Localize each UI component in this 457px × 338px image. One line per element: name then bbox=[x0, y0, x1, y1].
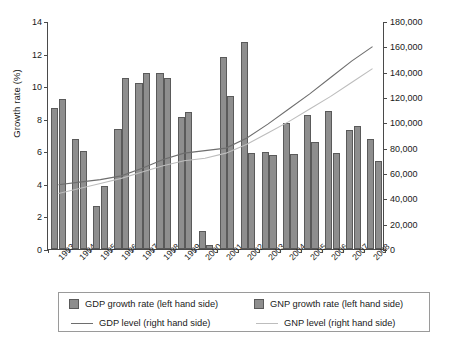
legend-row-lines: GDP level (right hand side) GNP level (r… bbox=[59, 313, 429, 333]
x-axis-tick bbox=[111, 249, 112, 253]
legend-label: GDP growth rate (left hand side) bbox=[85, 299, 218, 309]
x-axis-tick bbox=[153, 249, 154, 253]
y-axis-right-tick-label: 60,000 bbox=[390, 169, 418, 179]
legend-label: GNP level (right hand side) bbox=[284, 318, 395, 328]
y-axis-right-tick-label: 120,000 bbox=[390, 93, 423, 103]
x-axis-tick bbox=[238, 249, 239, 253]
y-axis-right-tick bbox=[383, 174, 387, 175]
x-axis-tick bbox=[132, 249, 133, 253]
legend-label: GDP level (right hand side) bbox=[99, 318, 210, 328]
y-axis-right-tick bbox=[383, 225, 387, 226]
y-axis-right-tick-label: 0 bbox=[390, 245, 395, 255]
x-axis-tick bbox=[195, 249, 196, 253]
x-axis-tick bbox=[301, 249, 302, 253]
x-axis-tick bbox=[385, 249, 386, 253]
y-axis-right-tick bbox=[383, 149, 387, 150]
y-axis-left-tick-label: 10 bbox=[32, 82, 42, 92]
y-axis-right-tick-label: 80,000 bbox=[390, 144, 418, 154]
y-axis-right-tick-label: 100,000 bbox=[390, 118, 423, 128]
y-axis-right-tick-label: 140,000 bbox=[390, 68, 423, 78]
x-axis-tick bbox=[90, 249, 91, 253]
x-axis-tick bbox=[69, 249, 70, 253]
x-axis-tick bbox=[48, 249, 49, 253]
y-axis-left-tick-label: 0 bbox=[37, 245, 42, 255]
plot-area: 02468101214 020,00040,00060,00080,000100… bbox=[47, 22, 384, 250]
x-axis-tick bbox=[259, 249, 260, 253]
y-axis-right-tick-label: 20,000 bbox=[390, 220, 418, 230]
y-axis-left-title: Growth rate (%) bbox=[11, 44, 22, 164]
gdp-growth-swatch-icon bbox=[69, 299, 79, 309]
legend-label: GNP growth rate (left hand side) bbox=[270, 299, 403, 309]
gnp-growth-swatch-icon bbox=[254, 299, 264, 309]
gdp-level-line-icon bbox=[71, 323, 93, 324]
y-axis-right-tick-label: 180,000 bbox=[390, 17, 423, 27]
x-axis-tick bbox=[217, 249, 218, 253]
gnp-level-line-icon bbox=[256, 323, 278, 324]
line-series-layer bbox=[48, 22, 383, 249]
x-axis-tick bbox=[343, 249, 344, 253]
y-axis-right-tick bbox=[383, 123, 387, 124]
y-axis-right-tick bbox=[383, 47, 387, 48]
x-axis-tick bbox=[280, 249, 281, 253]
y-axis-right-tick bbox=[383, 98, 387, 99]
y-axis-left-tick-label: 12 bbox=[32, 50, 42, 60]
legend-item-gdp-growth[interactable]: GDP growth rate (left hand side) bbox=[59, 294, 244, 314]
y-axis-left-tick-label: 14 bbox=[32, 17, 42, 27]
y-axis-left-tick-label: 2 bbox=[37, 212, 42, 222]
y-axis-left-tick-label: 8 bbox=[37, 115, 42, 125]
x-axis-tick bbox=[364, 249, 365, 253]
y-axis-left-tick-label: 4 bbox=[37, 180, 42, 190]
y-axis-right-tick-label: 40,000 bbox=[390, 194, 418, 204]
gnp-level-line bbox=[58, 69, 372, 194]
x-axis-tick bbox=[322, 249, 323, 253]
x-axis-tick bbox=[174, 249, 175, 253]
y-axis-right-tick bbox=[383, 22, 387, 23]
legend-item-gdp-level[interactable]: GDP level (right hand side) bbox=[59, 313, 244, 333]
gdp-level-line bbox=[58, 47, 372, 185]
y-axis-left-tick-label: 6 bbox=[37, 147, 42, 157]
chart-figure: Growth rate (%) Millions in local curren… bbox=[0, 0, 457, 338]
y-axis-right-tick-label: 160,000 bbox=[390, 42, 423, 52]
legend-item-gnp-growth[interactable]: GNP growth rate (left hand side) bbox=[244, 294, 429, 314]
legend-row-bars: GDP growth rate (left hand side) GNP gro… bbox=[59, 294, 429, 314]
y-axis-right-tick bbox=[383, 73, 387, 74]
chart-legend: GDP growth rate (left hand side) GNP gro… bbox=[58, 292, 430, 332]
legend-item-gnp-level[interactable]: GNP level (right hand side) bbox=[244, 313, 429, 333]
y-axis-right-tick bbox=[383, 199, 387, 200]
